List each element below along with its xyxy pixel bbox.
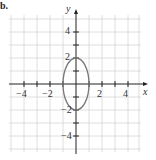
x-tick-label-2: 2: [97, 88, 102, 99]
y-tick-label-neg4: −4: [61, 130, 72, 141]
x-axis-label: x: [143, 86, 147, 97]
x-tick-label-neg4: −4: [16, 88, 27, 99]
y-tick-label-2: 2: [65, 51, 70, 62]
y-tick-label-neg2: −2: [61, 104, 72, 115]
y-axis-label: y: [66, 3, 70, 14]
coordinate-plot: [0, 0, 156, 160]
y-axis-arrow-icon: [74, 9, 78, 14]
y-tick-label-4: 4: [65, 25, 70, 36]
x-tick-label-neg2: −2: [42, 88, 53, 99]
x-tick-label-4: 4: [123, 88, 128, 99]
